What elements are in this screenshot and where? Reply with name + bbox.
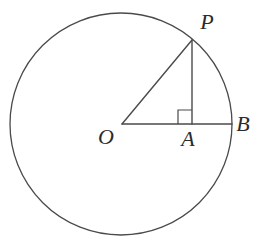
label-point-a: A — [181, 128, 194, 150]
label-point-p: P — [200, 11, 213, 33]
geometry-canvas — [0, 0, 259, 242]
segment-op — [122, 40, 192, 124]
geometry-figure: P B A O — [0, 0, 259, 242]
label-point-b: B — [236, 113, 249, 135]
right-angle-marker-icon — [178, 110, 192, 124]
label-point-o: O — [98, 126, 114, 148]
